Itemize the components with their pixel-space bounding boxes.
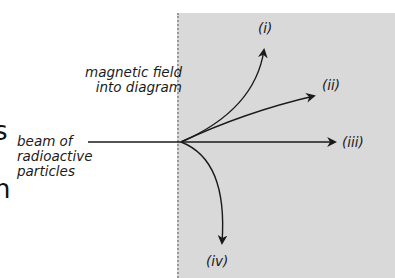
path-i-arrow xyxy=(181,50,264,142)
path-iv-arrow xyxy=(181,142,223,243)
particle-paths xyxy=(0,0,395,278)
path-ii-arrow xyxy=(181,96,314,142)
path-iv-label: (iv) xyxy=(206,253,228,269)
path-i-label: (i) xyxy=(258,20,272,36)
path-ii-label: (ii) xyxy=(322,77,340,93)
path-iii-label: (iii) xyxy=(342,134,364,150)
